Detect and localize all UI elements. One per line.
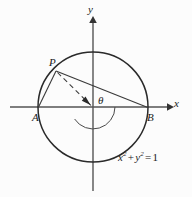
equation-value: 1 <box>152 151 158 163</box>
point-label-a: A <box>32 112 39 123</box>
x-axis-label: x <box>174 98 179 109</box>
segment-PO-dashed <box>58 73 92 106</box>
y-axis <box>89 16 97 191</box>
figure-canvas: y x A B P θ x2+y2=1 <box>0 0 192 197</box>
geometry-drawing <box>0 0 192 197</box>
x-axis <box>10 103 174 111</box>
circle-equation: x2+y2=1 <box>118 151 158 163</box>
theta-arc <box>75 107 115 129</box>
theta-label: θ <box>98 95 103 106</box>
y-axis-label: y <box>88 4 93 15</box>
y-axis-arrowhead <box>89 16 97 23</box>
equation-plus: + <box>127 151 135 163</box>
x-axis-arrowhead <box>167 103 174 111</box>
point-label-p: P <box>49 57 56 68</box>
point-label-b: B <box>147 112 154 123</box>
